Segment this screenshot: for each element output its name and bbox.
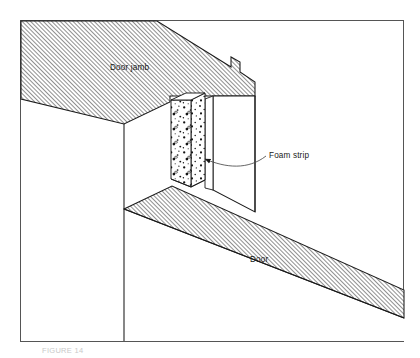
foam-strip-side — [191, 93, 205, 187]
figure-caption: FIGURE 14 — [42, 346, 83, 355]
technical-illustration: Door jamb Foam strip Door FIGURE 14 — [0, 0, 420, 358]
figure-container: Door jamb Foam strip Door FIGURE 14 — [0, 0, 420, 358]
jamb-reveal-face — [205, 96, 213, 190]
label-foam-strip: Foam strip — [269, 151, 309, 160]
label-door: Door — [250, 255, 268, 264]
label-door-jamb: Door jamb — [110, 63, 149, 72]
foam-strip-front — [171, 100, 191, 187]
